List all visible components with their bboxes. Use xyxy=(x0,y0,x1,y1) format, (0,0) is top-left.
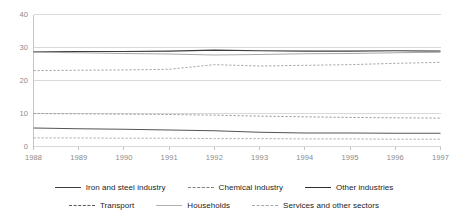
series-line-services-and-other-sectors xyxy=(34,138,441,139)
legend-label: Transport xyxy=(100,201,134,210)
series-line-chemical-industry xyxy=(34,62,441,70)
legend-label: Households xyxy=(187,201,230,210)
x-tick-label-1988: 1988 xyxy=(14,153,54,162)
y-tick-label-10: 10 xyxy=(8,109,28,118)
legend-row-1: Iron and steel industryChemical industry… xyxy=(0,178,448,196)
legend-swatch-solid-icon xyxy=(55,183,81,191)
y-tick-label-20: 20 xyxy=(8,76,28,85)
legend-item-services-and-other-sectors[interactable]: Services and other sectors xyxy=(252,201,379,210)
legend-item-other-industries[interactable]: Other industries xyxy=(305,183,393,192)
x-tick-label-1996: 1996 xyxy=(375,153,415,162)
legend-swatch-dashed-icon xyxy=(252,201,278,209)
legend-swatch-dashed-icon xyxy=(188,183,214,191)
x-tick-label-1990: 1990 xyxy=(104,153,144,162)
series-line-iron-and-steel-industry xyxy=(34,128,441,133)
series-line-transport xyxy=(34,114,441,119)
series-line-other-industries xyxy=(34,50,441,52)
legend-swatch-dashed-icon xyxy=(69,201,95,209)
legend-item-households[interactable]: Households xyxy=(156,201,230,210)
legend-row-2: TransportHouseholdsServices and other se… xyxy=(0,196,448,214)
x-tick-label-1993: 1993 xyxy=(240,153,280,162)
y-tick-label-40: 40 xyxy=(8,10,28,19)
legend-item-iron-and-steel-industry[interactable]: Iron and steel industry xyxy=(55,183,166,192)
legend-label: Services and other sectors xyxy=(283,201,379,210)
chart-legend: Iron and steel industryChemical industry… xyxy=(0,178,448,219)
legend-label: Chemical industry xyxy=(219,183,283,192)
x-tick-label-1995: 1995 xyxy=(330,153,370,162)
legend-item-transport[interactable]: Transport xyxy=(69,201,134,210)
x-tick-label-1997: 1997 xyxy=(421,153,454,162)
legend-label: Other industries xyxy=(336,183,393,192)
y-tick-label-30: 30 xyxy=(8,43,28,52)
x-tick-label-1991: 1991 xyxy=(149,153,189,162)
x-tick-label-1992: 1992 xyxy=(194,153,234,162)
x-tick-label-1989: 1989 xyxy=(59,153,99,162)
legend-item-chemical-industry[interactable]: Chemical industry xyxy=(188,183,283,192)
x-tick-label-1994: 1994 xyxy=(285,153,325,162)
legend-swatch-solid-icon xyxy=(156,201,182,209)
legend-label: Iron and steel industry xyxy=(86,183,166,192)
series-line-households xyxy=(34,52,441,55)
legend-swatch-solid-icon xyxy=(305,183,331,191)
y-tick-label-0: 0 xyxy=(8,142,28,151)
